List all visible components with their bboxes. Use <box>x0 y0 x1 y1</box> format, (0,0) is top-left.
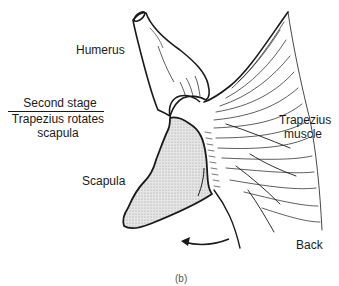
panel-label: (b) <box>175 272 187 286</box>
stage-title: Second stage <box>8 96 112 110</box>
trapezius-label-line2: muscle <box>284 127 322 141</box>
stage-description-line1: Trapezius rotates <box>6 112 110 126</box>
humerus-label: Humerus <box>76 43 125 57</box>
scapula-label: Scapula <box>82 174 125 188</box>
rotation-arrow-icon <box>181 237 229 246</box>
stage-description-line2: scapula <box>6 126 110 140</box>
back-label: Back <box>296 238 323 252</box>
scapula-bone <box>123 117 212 228</box>
trapezius-label: Trapezius <box>279 113 331 127</box>
